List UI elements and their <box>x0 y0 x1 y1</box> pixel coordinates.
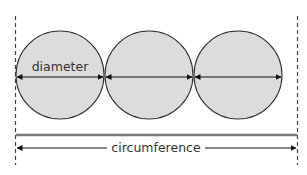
circumference-label: circumference <box>111 140 201 155</box>
diagram-canvas: diameter circumference <box>0 0 307 175</box>
diameter-label: diameter <box>32 59 90 74</box>
circle-3 <box>194 31 282 119</box>
circle-1 <box>16 31 104 119</box>
circle-2 <box>105 31 193 119</box>
circumference-diagram: diameter circumference <box>0 0 307 175</box>
